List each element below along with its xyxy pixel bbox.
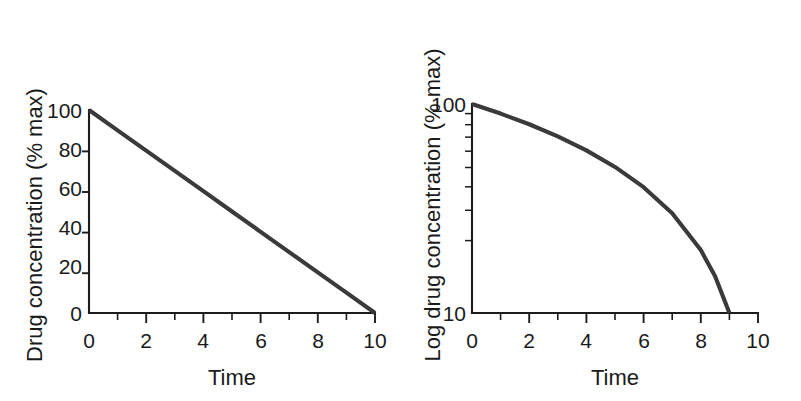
log-drug-concentration-line xyxy=(472,104,729,313)
right-x-ticklabel: 2 xyxy=(523,329,535,352)
left-x-ticklabel: 6 xyxy=(255,329,267,352)
left-x-ticks xyxy=(118,313,375,323)
left-x-axis-label: Time xyxy=(208,365,256,390)
right-x-ticklabel: 4 xyxy=(580,329,592,352)
left-x-ticklabel: 8 xyxy=(312,329,324,352)
left-y-ticklabel: 100 xyxy=(47,99,82,122)
left-y-ticklabels: 100 80 60 40 20 0 xyxy=(47,99,82,325)
right-x-ticklabel: 0 xyxy=(466,329,478,352)
left-x-ticklabel: 0 xyxy=(83,329,95,352)
left-x-ticklabel: 10 xyxy=(363,329,386,352)
left-y-ticklabel: 80 xyxy=(59,138,82,161)
figure-container: Drug concentration (% max) 100 80 60 40 … xyxy=(0,0,801,401)
right-y-ticklabel: 10 xyxy=(443,302,466,325)
left-x-ticklabels: 0 2 4 6 8 10 xyxy=(83,329,387,352)
left-y-axis-label: Drug concentration (% max) xyxy=(22,88,47,362)
left-x-ticklabel: 4 xyxy=(197,329,209,352)
chart-panel-log: Log drug concentration (% max) 100 10 xyxy=(400,0,801,401)
drug-concentration-line xyxy=(89,110,375,313)
right-x-ticklabel: 8 xyxy=(695,329,707,352)
chart-panel-linear: Drug concentration (% max) 100 80 60 40 … xyxy=(0,0,400,401)
right-x-axis-label: Time xyxy=(591,365,639,390)
linear-plot-svg: Drug concentration (% max) 100 80 60 40 … xyxy=(0,0,400,401)
right-x-ticklabel: 10 xyxy=(746,329,769,352)
left-x-ticklabel: 2 xyxy=(140,329,152,352)
left-y-ticklabel: 40 xyxy=(59,216,82,239)
right-x-ticks xyxy=(501,313,758,323)
left-y-ticklabel: 0 xyxy=(70,302,82,325)
right-x-ticklabels: 0 2 4 6 8 10 xyxy=(466,329,770,352)
left-y-ticklabel: 60 xyxy=(59,177,82,200)
left-y-ticklabel: 20 xyxy=(59,255,82,278)
log-plot-svg: Log drug concentration (% max) 100 10 xyxy=(400,0,801,401)
right-x-ticklabel: 6 xyxy=(638,329,650,352)
right-y-ticklabel: 100 xyxy=(431,93,466,116)
